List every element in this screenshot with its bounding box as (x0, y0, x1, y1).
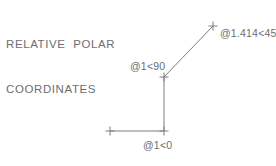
label-vertical-coordinate: @1<90 (130, 60, 165, 73)
label-diagonal-coordinate: @1.414<45 (220, 27, 276, 40)
label-horizontal-coordinate: @1<0 (143, 139, 172, 152)
diagram-title-line-1: RELATIVE POLAR (6, 37, 115, 52)
relative-polar-coordinates-diagram: RELATIVE POLAR COORDINATES @1.414<45 @1<… (0, 0, 276, 166)
diagram-title: RELATIVE POLAR COORDINATES (6, 8, 115, 126)
from-point-caption: FROM POINT (52, 164, 125, 166)
cross-marker-corner-point (160, 127, 169, 136)
from-point-annotation: FROM POINT 2,3 (52, 137, 125, 166)
cross-marker-start-point (106, 127, 115, 136)
diagram-title-line-2: COORDINATES (6, 82, 115, 97)
segment-diagonal (164, 26, 213, 77)
